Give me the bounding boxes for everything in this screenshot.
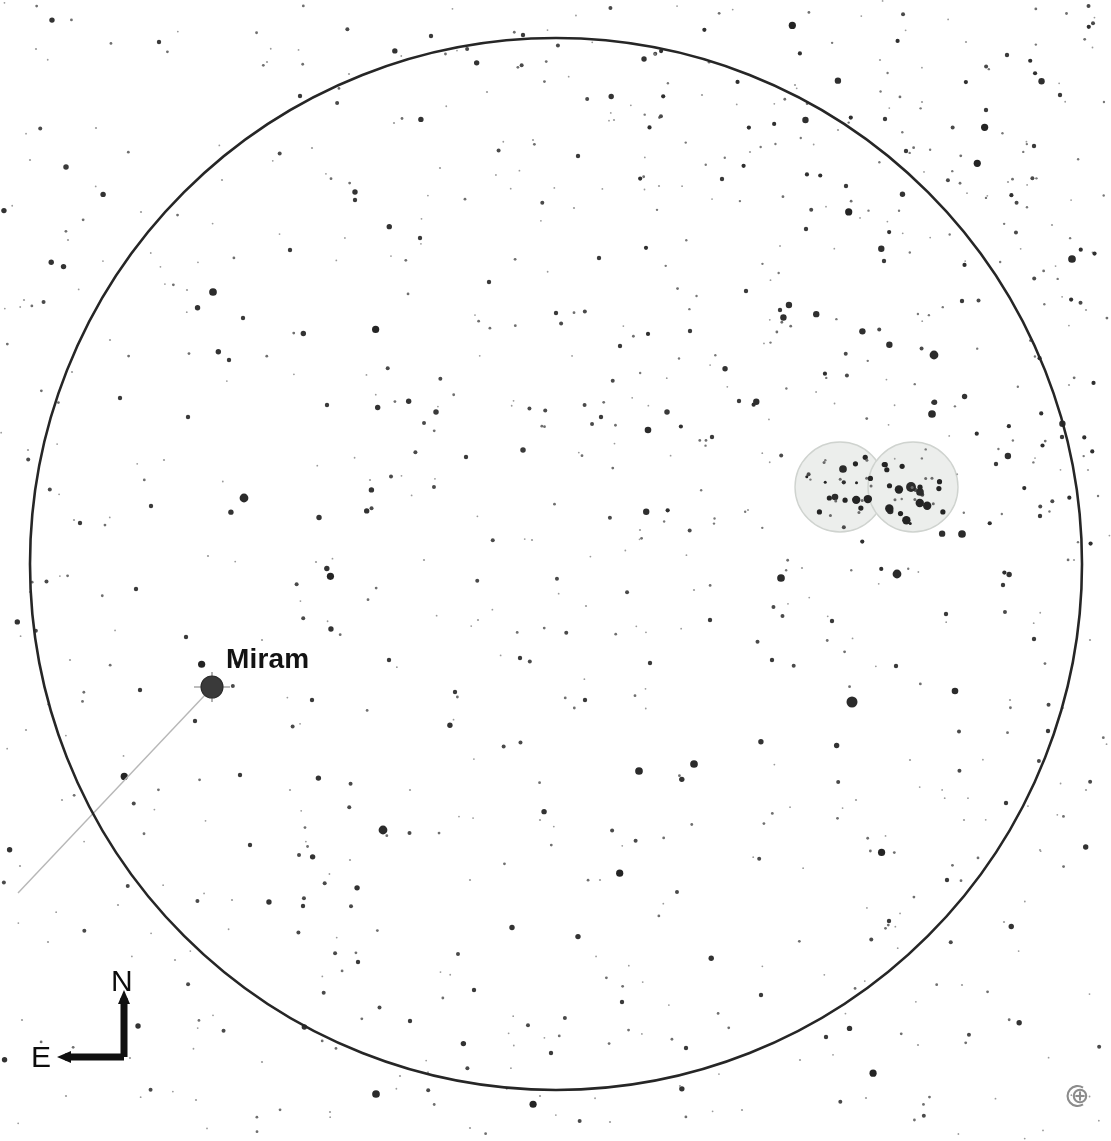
star-chart-root: A simple chart of the region, projected … — [0, 0, 1111, 1141]
star-label-miram: Miram — [226, 644, 309, 674]
compass-label-north: N — [111, 964, 133, 998]
compass-label-east: E — [31, 1040, 51, 1074]
sky-field-canvas[interactable] — [0, 0, 1111, 1141]
zoom-target-icon[interactable] — [1063, 1083, 1089, 1109]
